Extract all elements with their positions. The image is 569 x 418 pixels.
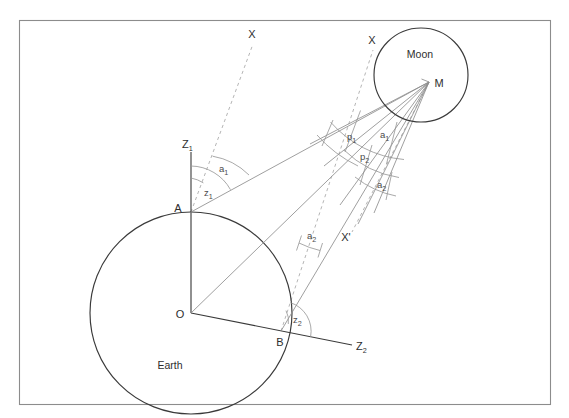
moon-circle: [374, 28, 468, 122]
zenith-axis-z2: [191, 313, 352, 345]
angle-label-z1: z1: [204, 187, 213, 201]
axis-label-z2: Z2: [356, 340, 367, 355]
axis-label-z2-sub: 2: [363, 346, 367, 355]
direction-label-x-prime: X': [341, 231, 350, 243]
angle-label-p1-sub: 1: [352, 136, 356, 145]
point-label-m: M: [434, 77, 443, 89]
angle-label-z2: z2: [293, 314, 302, 328]
arc-z1: [191, 178, 203, 183]
angle-label-a1-at-a-sub: 1: [224, 168, 228, 177]
moon-label: Moon: [407, 48, 433, 60]
point-label-a: A: [174, 202, 182, 214]
ray-cluster-4: [358, 82, 429, 224]
tick-a2-left: [297, 236, 302, 251]
axis-label-z1: Z1: [182, 138, 193, 153]
ray-cluster-1: [310, 82, 429, 144]
dashed-ray-b-to-x: [281, 50, 373, 331]
angle-label-z1-sub: 1: [209, 192, 213, 201]
direction-label-x-b: X: [368, 34, 376, 46]
earth-label: Earth: [157, 359, 182, 371]
angle-label-a2-at-b-sub: 2: [312, 235, 316, 244]
angle-label-a1-at-m-sub: 1: [385, 134, 389, 143]
axis-label-z1-sub: 1: [189, 144, 193, 153]
figure-border: [20, 21, 551, 405]
dashed-ray-a-to-x: [191, 44, 253, 212]
angle-label-p2: p2: [360, 151, 369, 165]
point-label-b: B: [276, 336, 283, 348]
angle-label-a1-at-m: a1: [380, 129, 389, 143]
sight-line-o-to-m: [191, 82, 429, 313]
parallax-diagram: Earth Moon A B O M Z1 Z2 X X X' z1 a1 p1…: [0, 0, 569, 418]
point-label-o: O: [176, 308, 185, 320]
direction-label-x-a: X: [248, 28, 256, 40]
sight-line-a-to-m: [191, 82, 429, 212]
angle-label-z2-sub: 2: [298, 319, 302, 328]
angle-label-a2-at-b: a2: [307, 230, 316, 244]
angle-label-a2-at-m-sub: 2: [382, 184, 386, 193]
angle-label-p2-sub: 2: [365, 156, 369, 165]
figure-root: Earth Moon A B O M Z1 Z2 X X X' z1 a1 p1…: [0, 0, 569, 418]
angle-label-a1-at-a: a1: [219, 163, 228, 177]
